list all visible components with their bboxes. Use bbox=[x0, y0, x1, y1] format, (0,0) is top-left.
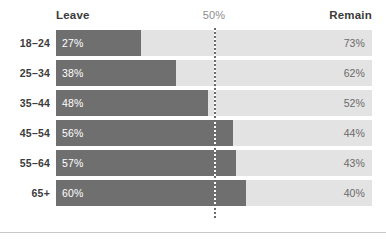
reference-line-label: 50% bbox=[203, 9, 226, 21]
value-remain-65-plus: 40% bbox=[344, 187, 365, 199]
value-remain-55-64: 43% bbox=[344, 157, 365, 169]
value-leave-65-plus: 60% bbox=[62, 187, 83, 199]
category-label-65-plus: 65+ bbox=[0, 180, 50, 206]
category-label-55-64: 55–64 bbox=[0, 150, 50, 176]
value-remain-35-44: 52% bbox=[344, 97, 365, 109]
category-label-25-34: 25–34 bbox=[0, 60, 50, 86]
value-remain-18-24: 73% bbox=[344, 37, 365, 49]
value-remain-45-54: 44% bbox=[344, 127, 365, 139]
legend-label-leave: Leave bbox=[56, 9, 90, 21]
value-leave-45-54: 56% bbox=[62, 127, 83, 139]
value-leave-25-34: 38% bbox=[62, 67, 83, 79]
category-label-18-24: 18–24 bbox=[0, 30, 50, 56]
legend-label-remain: Remain bbox=[329, 9, 372, 21]
bottom-divider bbox=[0, 232, 386, 233]
value-leave-18-24: 27% bbox=[62, 37, 83, 49]
category-label-35-44: 35–44 bbox=[0, 90, 50, 116]
bar-leave-65-plus bbox=[56, 180, 246, 206]
eu-referendum-vote-by-age-chart: Leave 50% Remain 18–24 25–34 35–44 45–54… bbox=[0, 0, 386, 246]
chart-header: Leave 50% Remain bbox=[56, 9, 372, 27]
reference-line-50-percent bbox=[214, 26, 216, 220]
category-label-45-54: 45–54 bbox=[0, 120, 50, 146]
value-remain-25-34: 62% bbox=[344, 67, 365, 79]
value-leave-35-44: 48% bbox=[62, 97, 83, 109]
value-leave-55-64: 57% bbox=[62, 157, 83, 169]
